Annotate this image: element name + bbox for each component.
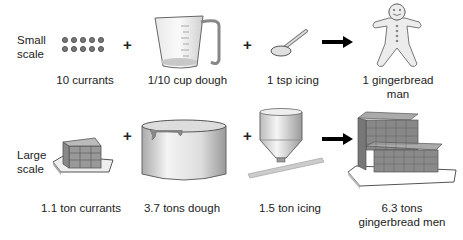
large-scale-label-line2: scale <box>17 162 46 176</box>
plus-sign: + <box>123 127 132 144</box>
large-scale-label: Large scale <box>17 148 46 176</box>
large-result-caption: 6.3 tons gingerbread men <box>352 201 452 229</box>
small-dough-caption: 1/10 cup dough <box>145 73 230 87</box>
small-icing-caption: 1 tsp icing <box>258 73 328 87</box>
small-scale-label: Small scale <box>17 33 46 61</box>
dough-vat-icon <box>140 118 228 184</box>
measuring-cup-icon <box>153 12 225 70</box>
small-scale-label-line2: scale <box>17 47 46 61</box>
currants-dots-icon <box>62 37 108 53</box>
large-result-line1: 6.3 tons <box>352 201 452 215</box>
gingerbread-man-icon <box>369 2 425 70</box>
plus-sign: + <box>123 36 132 53</box>
large-currants-caption: 1.1 ton currants <box>36 201 126 215</box>
icing-silo-icon <box>246 106 326 176</box>
small-result-caption: 1 gingerbread man <box>352 73 444 101</box>
arrow-right-icon <box>322 36 354 48</box>
large-scale-label-line1: Large <box>17 148 46 162</box>
teaspoon-icon <box>270 28 310 58</box>
small-currants-caption: 10 currants <box>50 73 120 87</box>
small-result-line2: man <box>352 87 444 101</box>
large-result-line2: gingerbread men <box>352 215 452 229</box>
plus-sign: + <box>243 36 252 53</box>
large-icing-caption: 1.5 ton icing <box>250 201 330 215</box>
currants-pallet-icon <box>53 138 115 180</box>
large-dough-caption: 3.7 tons dough <box>136 201 228 215</box>
small-result-line1: 1 gingerbread <box>352 73 444 87</box>
small-scale-label-line1: Small <box>17 33 46 47</box>
gingerbread-pallet-stack-icon <box>346 110 458 192</box>
